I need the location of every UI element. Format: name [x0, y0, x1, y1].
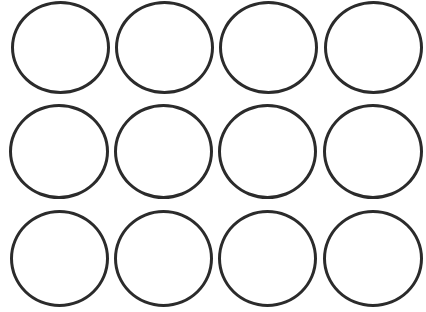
circle-outline: [218, 104, 317, 199]
circle-outline: [114, 104, 213, 199]
circle-outline: [219, 1, 318, 94]
circle-outline: [10, 210, 109, 307]
circle-outline: [323, 210, 423, 307]
circle-outline: [114, 210, 213, 307]
circle-outline: [324, 1, 423, 94]
circle-outline: [218, 210, 317, 307]
circle-outline: [11, 1, 110, 94]
circle-outline: [323, 104, 423, 199]
circle-outline: [9, 104, 109, 199]
circle-outline: [115, 1, 214, 94]
